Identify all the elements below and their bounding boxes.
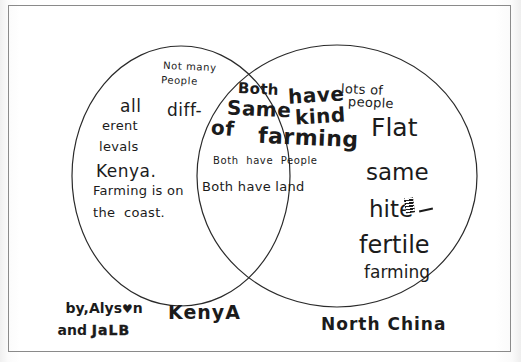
right-note-fertile: fertile — [359, 233, 430, 258]
left-note-farming-is-on: Farming is on — [93, 184, 184, 198]
label-kenya: KenyA — [168, 303, 241, 323]
label-north-china: North China — [321, 316, 446, 334]
right-note-flat: Flat — [371, 115, 417, 141]
left-note-all: all — [120, 98, 141, 116]
left-note-diff: diff- — [167, 102, 202, 120]
left-note-erent: erent — [102, 119, 138, 133]
scribbled-out-letter-icon — [404, 197, 415, 213]
right-note-people: people — [348, 95, 394, 111]
signature-author-one-suffix: n — [133, 300, 143, 316]
signature-and-prefix: and — [58, 322, 92, 338]
right-note-same: same — [366, 160, 429, 184]
left-note-kenya-word: Kenya. — [96, 163, 156, 181]
worksheet-page: Not many People all diff- erent levals K… — [0, 0, 521, 362]
overlap-note-both-have-people: Both have People — [213, 156, 318, 167]
overlap-word-same: Same — [227, 98, 292, 122]
left-note-levals: levals — [99, 140, 138, 154]
left-note-not-many-people-line2: People — [161, 75, 198, 87]
right-note-farming: farming — [364, 264, 430, 282]
left-note-the-coast: the coast. — [93, 206, 165, 220]
overlap-note-both-have-land: Both have land — [202, 180, 305, 194]
overlap-word-of: of — [210, 117, 235, 140]
signature-author-two-name: JaLB — [92, 322, 130, 338]
overlap-word-farming: farming — [258, 124, 360, 151]
signature-line-2: and JaLB — [38, 308, 130, 352]
